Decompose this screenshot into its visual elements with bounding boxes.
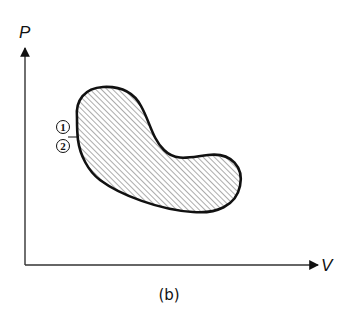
- y-axis-label: P: [19, 23, 31, 42]
- state-label-1: 1: [57, 121, 70, 134]
- svg-text:2: 2: [60, 140, 66, 152]
- x-axis-label: V: [321, 256, 334, 275]
- pv-diagram: P V 1 2 (b): [0, 0, 349, 319]
- cycle-region: [77, 87, 241, 212]
- state-label-2: 2: [57, 140, 70, 153]
- figure-caption: (b): [158, 286, 179, 304]
- svg-text:1: 1: [60, 121, 66, 133]
